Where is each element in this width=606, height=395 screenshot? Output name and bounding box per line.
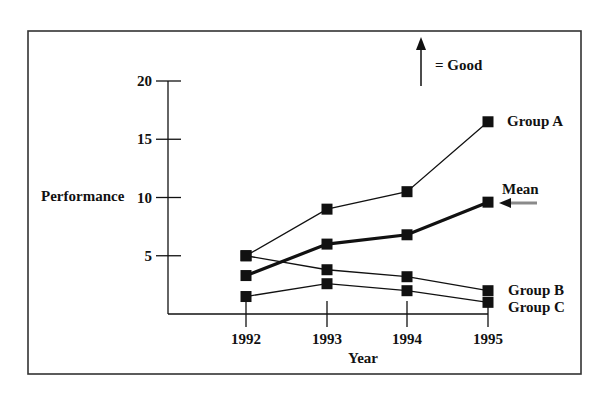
y-tick-label: 20: [137, 73, 152, 89]
x-tick-label: 1992: [231, 331, 261, 347]
x-tick-label: 1993: [312, 331, 342, 347]
data-point-group-b: [322, 264, 333, 275]
data-point-mean: [402, 229, 413, 240]
series-label-group-c: Group C: [508, 299, 565, 315]
series-label-group-b: Group B: [508, 282, 564, 298]
good-legend-label: = Good: [435, 57, 483, 73]
data-point-group-a: [322, 204, 333, 215]
series-label-group-a: Group A: [507, 113, 563, 129]
data-point-mean: [322, 239, 333, 250]
data-point-group-c: [322, 278, 333, 289]
y-tick-label: 15: [137, 131, 152, 147]
performance-chart: 5101520 1992199319941995 Performance Yea…: [0, 0, 606, 395]
y-tick-label: 5: [145, 248, 153, 264]
x-axis-label: Year: [348, 350, 378, 366]
data-point-group-b: [483, 285, 494, 296]
x-tick-label: 1994: [392, 331, 423, 347]
y-axis-label: Performance: [41, 188, 125, 204]
data-point-group-b: [402, 271, 413, 282]
series-label-mean: Mean: [502, 181, 539, 197]
data-point-group-c: [402, 285, 413, 296]
y-tick-label: 10: [137, 190, 152, 206]
data-point-group-b: [241, 250, 252, 261]
data-point-group-c: [483, 297, 494, 308]
data-point-mean: [241, 270, 252, 281]
data-point-mean: [483, 197, 494, 208]
x-tick-label: 1995: [473, 331, 503, 347]
data-point-group-a: [483, 116, 494, 127]
data-point-group-c: [241, 291, 252, 302]
data-point-group-a: [402, 186, 413, 197]
